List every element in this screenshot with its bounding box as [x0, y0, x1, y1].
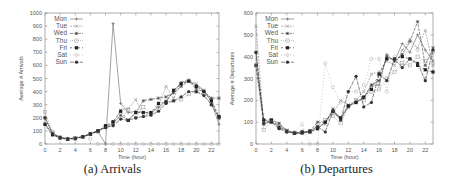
y-tick-label: 900: [33, 23, 42, 29]
series-line: [256, 50, 433, 133]
y-tick-label: 500: [33, 76, 42, 82]
x-tick-label: 0: [43, 147, 46, 153]
departures-caption: (b) Departures: [224, 162, 449, 177]
legend-label: Wed: [265, 29, 279, 36]
x-axis-label: Time (hour): [118, 154, 146, 160]
y-tick-label: 100: [33, 128, 42, 134]
x-tick-label: 6: [89, 147, 92, 153]
series-thu: [254, 51, 434, 135]
departures-chart-panel: 01002003004005006000246810121416182022Ti…: [224, 0, 449, 189]
x-tick-label: 14: [361, 147, 367, 153]
series-line: [45, 118, 219, 144]
x-axis: 0246810121416182022: [43, 13, 214, 153]
legend: MonTueWedThuFriSatSun: [265, 15, 294, 65]
x-tick-label: 12: [133, 147, 139, 153]
series-line: [256, 26, 433, 133]
y-tick-label: 400: [33, 89, 42, 95]
series-wed: [43, 80, 220, 141]
legend-label: Tue: [56, 22, 67, 29]
x-axis: 0246810121416182022: [254, 13, 428, 153]
series-line: [256, 57, 433, 133]
y-tick-label: 100: [244, 119, 253, 125]
y-tick-label: 0: [250, 141, 253, 147]
x-tick-label: 16: [376, 147, 382, 153]
legend-label: Fri: [270, 44, 278, 51]
series-mon: [43, 22, 220, 146]
series-fri: [254, 55, 434, 135]
plot-frame: [45, 13, 219, 144]
x-axis-label: Time (hour): [330, 154, 358, 160]
legend-label: Mon: [265, 15, 278, 22]
y-tick-label: 200: [33, 115, 42, 121]
y-tick-label: 0: [39, 141, 42, 147]
legend: MonTueWedThuFriSatSun: [54, 15, 83, 65]
series-line: [256, 52, 433, 133]
series-line: [45, 80, 219, 139]
series-tue: [43, 78, 220, 140]
x-tick-label: 0: [254, 147, 257, 153]
series-fri: [43, 80, 220, 141]
legend-label: Tue: [267, 22, 278, 29]
x-tick-label: 14: [148, 147, 154, 153]
x-tick-label: 4: [285, 147, 288, 153]
x-tick-label: 4: [74, 147, 77, 153]
series-line: [45, 81, 219, 139]
x-tick-label: 2: [270, 147, 273, 153]
x-tick-label: 20: [407, 147, 413, 153]
y-tick-label: 500: [244, 32, 253, 38]
legend-label: Sun: [266, 58, 278, 65]
legend-label: Wed: [54, 29, 68, 36]
x-tick-label: 22: [422, 147, 428, 153]
x-tick-label: 10: [330, 147, 336, 153]
legend-label: Thu: [56, 37, 68, 44]
y-tick-label: 700: [33, 49, 42, 55]
y-tick-label: 400: [244, 54, 253, 60]
series-wed: [254, 20, 434, 135]
series-sat: [43, 116, 220, 145]
series-sun: [43, 90, 220, 140]
series-line: [256, 41, 433, 144]
x-tick-label: 6: [301, 147, 304, 153]
y-tick-label: 200: [244, 97, 253, 103]
series-line: [256, 35, 433, 133]
legend-label: Sat: [57, 51, 67, 58]
legend-label: Mon: [54, 15, 67, 22]
y-axis-label: Average # Arrivals: [18, 56, 24, 101]
series-group: [254, 20, 434, 145]
legend-label: Thu: [267, 37, 279, 44]
series-sun: [254, 49, 434, 135]
x-tick-label: 22: [208, 147, 214, 153]
series-line: [45, 92, 219, 139]
series-line: [45, 92, 219, 139]
series-line: [256, 22, 433, 133]
y-tick-label: 300: [33, 102, 42, 108]
x-tick-label: 10: [118, 147, 124, 153]
y-tick-label: 1000: [30, 10, 42, 16]
arrivals-caption: (a) Arrivals: [0, 162, 225, 177]
x-tick-label: 2: [59, 147, 62, 153]
x-tick-label: 8: [104, 147, 107, 153]
series-line: [45, 81, 219, 139]
y-tick-label: 300: [244, 76, 253, 82]
series-tue: [254, 25, 434, 135]
series-thu: [43, 90, 220, 140]
plot-frame: [256, 13, 433, 144]
x-tick-label: 8: [316, 147, 319, 153]
legend-label: Fri: [59, 44, 67, 51]
y-tick-label: 600: [33, 62, 42, 68]
x-tick-label: 20: [193, 147, 199, 153]
x-tick-label: 16: [163, 147, 169, 153]
legend-label: Sun: [55, 58, 67, 65]
series-group: [43, 22, 220, 146]
y-tick-label: 600: [244, 10, 253, 16]
x-tick-label: 12: [345, 147, 351, 153]
y-axis-label: Average # Departures: [229, 51, 235, 105]
y-tick-label: 800: [33, 36, 42, 42]
arrivals-chart-panel: 0100200300400500600700800900100002468101…: [0, 0, 225, 189]
legend-label: Sat: [268, 51, 278, 58]
arrivals-chart: 0100200300400500600700800900100002468101…: [0, 0, 225, 189]
departures-chart: 01002003004005006000246810121416182022Ti…: [224, 0, 449, 189]
series-mon: [254, 33, 434, 134]
x-tick-label: 18: [178, 147, 184, 153]
x-tick-label: 18: [391, 147, 397, 153]
